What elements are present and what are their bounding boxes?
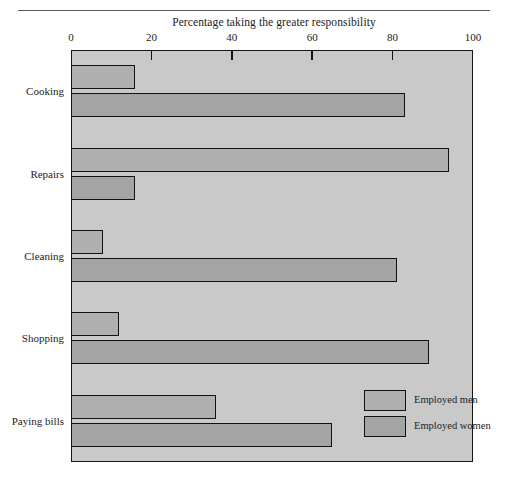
legend-label: Employed women [414, 420, 491, 431]
x-tick-label: 0 [68, 31, 74, 43]
bar-employed-women [71, 176, 135, 200]
y-category-label: Shopping [22, 332, 64, 344]
x-tick-label: 100 [465, 31, 482, 43]
bar-employed-men [71, 65, 135, 89]
bar-employed-women [71, 340, 429, 364]
top-divider-rule [18, 10, 490, 11]
x-tick-label: 80 [387, 31, 398, 43]
bar-employed-men [71, 312, 119, 336]
x-axis-tick-labels: 020406080100 [71, 31, 473, 47]
bar-employed-women [71, 93, 405, 117]
bar-employed-men [71, 230, 103, 254]
chart-title-text: Percentage taking the greater responsibi… [172, 16, 376, 28]
y-category-label: Paying bills [12, 415, 64, 427]
legend-swatch [364, 416, 406, 437]
legend-label: Employed men [414, 394, 478, 405]
x-tick-label: 60 [307, 31, 318, 43]
chart-title: Percentage taking the greater responsibi… [0, 16, 506, 28]
y-axis-category-labels: CookingRepairsCleaningShoppingPaying bil… [0, 50, 64, 462]
bar-employed-women [71, 258, 397, 282]
plot-wrapper: Employed menEmployed women [71, 50, 473, 462]
bar-employed-women [71, 423, 332, 447]
y-category-label: Repairs [30, 168, 64, 180]
legend-entry: Employed women [364, 416, 486, 439]
chart-legend: Employed menEmployed women [364, 390, 486, 442]
legend-entry: Employed men [364, 390, 486, 413]
y-category-label: Cooking [26, 85, 64, 97]
bar-employed-men [71, 148, 449, 172]
legend-swatch [364, 390, 406, 411]
x-tick-label: 40 [226, 31, 237, 43]
y-category-label: Cleaning [24, 250, 64, 262]
bar-employed-men [71, 395, 216, 419]
x-tick-label: 20 [146, 31, 157, 43]
